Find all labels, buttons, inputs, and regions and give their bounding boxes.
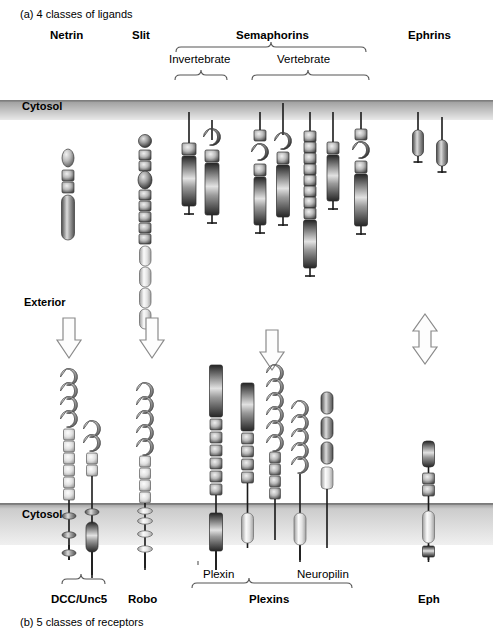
receptor-footer-robo: Robo: [128, 594, 157, 606]
ligand-subheader-invertebrate: Invertebrate: [169, 54, 230, 66]
top-membrane: [0, 100, 493, 120]
bracket-invertebrate: [175, 70, 227, 80]
ligand-semaphorin-vertebrate-1: [251, 112, 268, 234]
ligand-netrin: [62, 149, 75, 240]
receptor-header-neuropilin: Neuropilin: [297, 569, 349, 581]
bracket-vertebrate: [252, 70, 369, 80]
panel-a-caption: (a) 4 classes of ligands: [20, 9, 133, 20]
arrow-down-netrin: [57, 318, 81, 358]
bracket-dcc-unc5: [62, 574, 105, 584]
ligand-semaphorin-vertebrate-4: [327, 112, 339, 210]
ligand-semaphorin-invertebrate-2: [203, 120, 220, 224]
receptor-plexin-1-intracellular: [210, 503, 223, 570]
ligand-ephrin-2: [437, 117, 448, 173]
ligand-semaphorin-vertebrate-2: [274, 103, 291, 226]
receptor-footer-dcc-unc5: DCC/Unc5: [51, 594, 107, 606]
label-cytosol-bottom: Cytosol: [22, 509, 62, 520]
receptor-robo-intracellular: [138, 503, 153, 570]
panel-b-caption: (b) 5 classes of receptors: [20, 617, 144, 628]
ligand-header-ephrins: Ephrins: [408, 30, 451, 42]
ligand-subheader-vertebrate: Vertebrate: [277, 54, 330, 66]
ligand-header-slit: Slit: [132, 30, 150, 42]
arrow-down-semaphorin: [260, 330, 284, 370]
diagram-canvas: [0, 0, 493, 641]
label-exterior: Exterior: [24, 297, 66, 308]
receptor-footer-eph: Eph: [418, 594, 440, 606]
receptor-header-plexin: Plexin: [203, 569, 234, 581]
ligand-header-netrin: Netrin: [50, 30, 83, 42]
bracket-semaphorins: [176, 42, 366, 52]
ligand-header-semaphorins: Semaphorins: [236, 30, 309, 42]
arrow-bidirectional-ephrin: [413, 314, 437, 364]
label-cytosol-top: Cytosol: [22, 101, 62, 112]
ligand-semaphorin-vertebrate-5: [352, 112, 369, 235]
ligand-semaphorin-invertebrate-1: [182, 112, 196, 215]
receptor-unc5-intracellular: [85, 503, 99, 578]
ligand-slit: [138, 135, 152, 330]
receptor-footer-plexins: Plexins: [249, 594, 289, 606]
ligand-semaphorin-vertebrate-3: [304, 112, 317, 277]
figure-guidance-molecules: (a) 4 classes of ligands Netrin Slit Sem…: [0, 0, 493, 641]
